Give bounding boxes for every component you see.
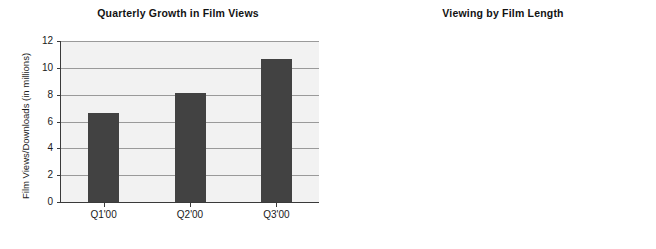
y-axis-tick-label: 12 [42, 36, 53, 46]
y-axis-tick-label: 8 [47, 90, 53, 100]
plot-area: 024681012Q1'00Q2'00Q3'00 [60, 41, 319, 203]
y-axis-tick [57, 68, 61, 69]
x-axis-tick [276, 203, 277, 207]
chart-title: Quarterly Growth in Film Views [0, 7, 328, 19]
y-axis-tick-label: 6 [47, 117, 53, 127]
y-axis-tick [57, 95, 61, 96]
x-axis-tick-label: Q3'00 [236, 209, 316, 220]
y-axis-tick [57, 175, 61, 176]
chart-panel-viewing-by-film-length: Viewing by Film Length Viewing (in milli… [328, 0, 656, 249]
y-axis-tick-label: 0 [47, 197, 53, 207]
figure-two-bar-charts: Quarterly Growth in Film Views Film View… [0, 0, 656, 249]
y-axis-tick [57, 41, 61, 42]
y-axis-tick [57, 122, 61, 123]
gridline [61, 41, 319, 42]
y-axis-tick [57, 148, 61, 149]
x-axis-tick [104, 203, 105, 207]
bar [88, 113, 119, 202]
y-axis-tick-label: 2 [47, 170, 53, 180]
y-axis-tick-label: 10 [42, 63, 53, 73]
bar [175, 93, 206, 202]
x-axis-tick-label: Q2'00 [150, 209, 230, 220]
y-axis-tick-label: 4 [47, 143, 53, 153]
y-axis-tick [57, 202, 61, 203]
y-axis-label: Film Views/Downloads (in millions) [20, 53, 31, 199]
chart-title: Viewing by Film Length [328, 7, 656, 19]
chart-panel-quarterly-growth: Quarterly Growth in Film Views Film View… [0, 0, 328, 249]
x-axis-tick-label: Q1'00 [64, 209, 144, 220]
x-axis-tick [190, 203, 191, 207]
bar [261, 59, 292, 202]
